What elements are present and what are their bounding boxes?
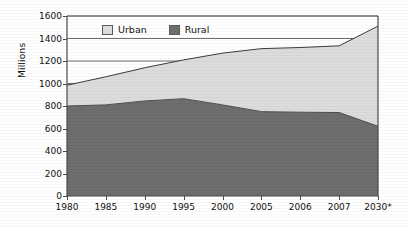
y-tick-mark-1400 — [63, 39, 67, 40]
x-tick-label-2006: 2006 — [289, 203, 312, 212]
legend-swatch-rural — [169, 25, 180, 35]
y-tick-mark-1600 — [63, 16, 67, 17]
x-tick-mark-1985 — [106, 196, 107, 200]
y-tick-mark-800 — [63, 106, 67, 107]
y-tick-mark-1200 — [63, 61, 67, 62]
y-tick-mark-1000 — [63, 84, 67, 85]
chart-legend: Urban Rural — [96, 22, 215, 38]
y-tick-mark-400 — [63, 151, 67, 152]
x-tick-mark-2007 — [339, 196, 340, 200]
x-tick-mark-1980 — [67, 196, 68, 200]
legend-label-rural: Rural — [185, 25, 210, 35]
stacked-area-chart: Millions 02004006008001000120014001600 1… — [0, 0, 409, 227]
x-tick-label-2000: 2000 — [211, 203, 234, 212]
x-tick-mark-2005 — [261, 196, 262, 200]
x-tick-label-1980: 1980 — [56, 203, 79, 212]
y-tick-mark-200 — [63, 174, 67, 175]
x-tick-label-1990: 1990 — [133, 203, 156, 212]
x-tick-label-2007: 2007 — [328, 203, 351, 212]
x-tick-mark-2000 — [223, 196, 224, 200]
x-tick-label-1985: 1985 — [94, 203, 117, 212]
x-tick-mark-2030-proj — [378, 196, 379, 200]
area-rural — [67, 99, 378, 196]
x-tick-label-1995: 1995 — [172, 203, 195, 212]
x-tick-label-2030-proj: 2030* — [364, 203, 391, 212]
x-tick-mark-1990 — [145, 196, 146, 200]
legend-label-urban: Urban — [118, 25, 147, 35]
legend-item-rural[interactable]: Rural — [169, 25, 210, 35]
y-tick-mark-600 — [63, 129, 67, 130]
x-tick-label-2005: 2005 — [250, 203, 273, 212]
x-tick-mark-1995 — [184, 196, 185, 200]
legend-item-urban[interactable]: Urban — [102, 25, 147, 35]
legend-swatch-urban — [102, 25, 113, 35]
x-tick-mark-2006 — [300, 196, 301, 200]
